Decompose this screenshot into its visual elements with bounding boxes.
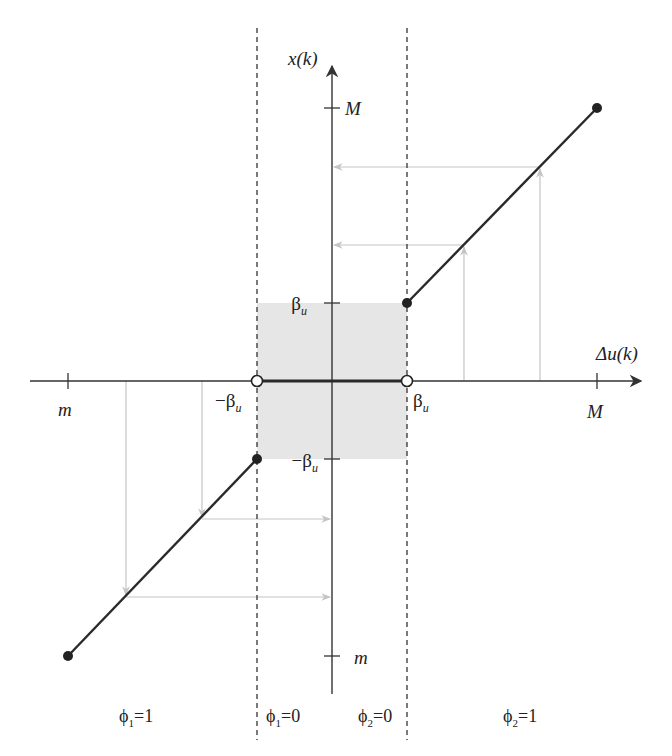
x-tick-neg-beta: −βu	[215, 390, 241, 415]
y-tick-max: M	[344, 98, 362, 119]
segment-positive	[407, 108, 597, 303]
open-point-neg-beta	[252, 376, 263, 387]
region-label-phi1-1: ϕ1=1	[119, 706, 153, 729]
quantizer-diagram: x(k) Δu(k) m M −βu βu M βu −βu m ϕ1=1 ϕ1…	[0, 0, 672, 756]
filled-point-neg-beta	[252, 454, 262, 464]
y-tick-min: m	[354, 647, 368, 668]
y-axis-label: x(k)	[287, 48, 318, 70]
filled-point-min	[63, 651, 73, 661]
filled-point-max	[592, 103, 602, 113]
x-tick-min: m	[58, 399, 72, 420]
segment-negative	[68, 459, 257, 656]
open-point-pos-beta	[402, 376, 413, 387]
x-tick-max: M	[586, 401, 604, 422]
region-label-phi2-1: ϕ2=1	[503, 706, 537, 729]
filled-point-pos-beta	[402, 298, 412, 308]
x-axis-label: Δu(k)	[595, 343, 638, 365]
x-tick-pos-beta: βu	[413, 390, 429, 415]
region-label-phi1-0: ϕ1=0	[266, 706, 300, 729]
region-label-phi2-0: ϕ2=0	[358, 706, 392, 729]
